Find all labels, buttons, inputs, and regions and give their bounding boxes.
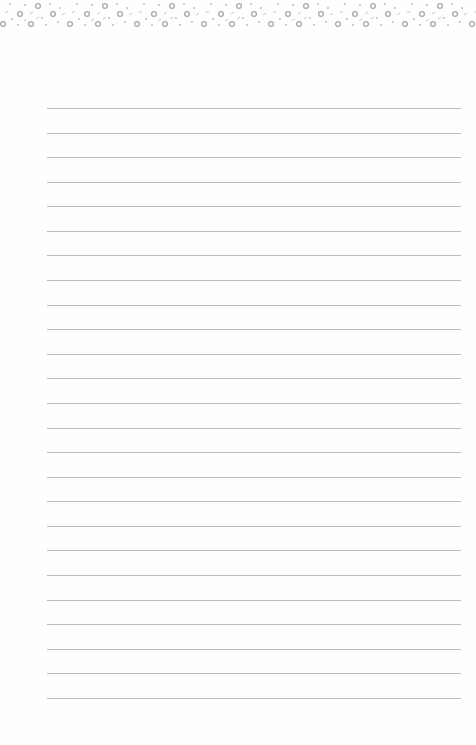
ruled-line [47,550,461,551]
ruled-line [47,280,461,281]
ruled-line [47,428,461,429]
ruled-line [47,575,461,576]
ruled-line [47,108,461,109]
ruled-line [47,255,461,256]
notepaper-page [0,0,476,745]
ruled-line [47,673,461,674]
ruled-line [47,206,461,207]
ruled-line [47,501,461,502]
ruled-line [47,305,461,306]
ruled-line [47,649,461,650]
ruled-line [47,182,461,183]
ruled-line [47,378,461,379]
ruled-line [47,624,461,625]
ruled-line [47,231,461,232]
ruled-line [47,354,461,355]
ruled-line [47,133,461,134]
ruled-line [47,698,461,699]
ruled-lines [0,0,476,745]
ruled-line [47,329,461,330]
ruled-line [47,403,461,404]
ruled-line [47,477,461,478]
ruled-line [47,157,461,158]
ruled-line [47,526,461,527]
ruled-line [47,600,461,601]
ruled-line [47,452,461,453]
